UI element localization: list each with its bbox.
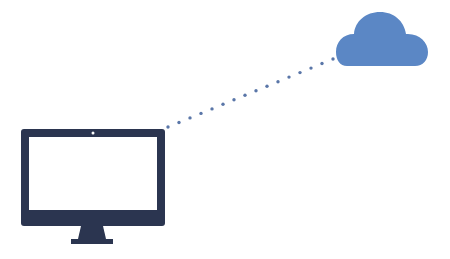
connector-dot xyxy=(232,98,235,101)
connector-dot xyxy=(199,112,202,115)
connector-dot xyxy=(210,107,213,110)
connector-dot xyxy=(309,66,312,69)
cloud-icon xyxy=(336,12,428,66)
connector-dot xyxy=(287,75,290,78)
connector-dot xyxy=(188,116,191,119)
connector-dot xyxy=(177,121,180,124)
monitor-stand-neck xyxy=(78,226,106,239)
connector-dot xyxy=(331,57,334,60)
diagram-canvas xyxy=(0,0,450,259)
connector-dot xyxy=(298,71,301,74)
connector-dot xyxy=(265,85,268,88)
monitor-screen xyxy=(29,137,157,210)
connector-dot xyxy=(166,125,169,128)
connector-dot xyxy=(254,89,257,92)
diagram-svg xyxy=(0,0,450,259)
camera-dot xyxy=(92,132,95,135)
connector-dot xyxy=(276,80,279,83)
dotted-connector xyxy=(166,57,334,128)
cloud-shape xyxy=(336,12,428,66)
monitor-icon xyxy=(21,129,165,244)
connector-dot xyxy=(221,103,224,106)
connector-dot xyxy=(243,94,246,97)
connector-dot xyxy=(320,62,323,65)
monitor-stand-base xyxy=(71,239,113,244)
